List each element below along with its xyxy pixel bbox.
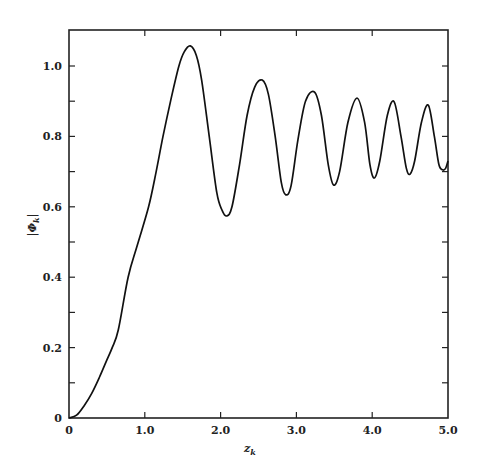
axes-box (69, 30, 448, 418)
x-tick-label: 4.0 (363, 424, 382, 437)
x-tick-label: 3.0 (287, 424, 306, 437)
axis-ticks (69, 30, 448, 418)
line-chart: 01.02.03.04.05.000.20.40.60.81.0 zk |Φk| (0, 0, 480, 472)
y-tick-label: 0.2 (43, 342, 62, 355)
y-tick-label: 0.8 (43, 130, 62, 143)
y-tick-label: 0 (54, 412, 62, 425)
tick-labels: 01.02.03.04.05.000.20.40.60.81.0 (43, 60, 458, 437)
x-tick-label: 0 (65, 424, 73, 437)
x-tick-label: 5.0 (438, 424, 457, 437)
x-tick-label: 1.0 (135, 424, 154, 437)
y-axis-label: |Φk| (26, 213, 41, 236)
y-tick-label: 0.4 (43, 271, 62, 284)
x-axis-label: zk (243, 442, 256, 457)
y-tick-label: 1.0 (43, 60, 62, 73)
data-series (69, 46, 448, 418)
y-tick-label: 0.6 (43, 201, 62, 214)
series-line (69, 46, 448, 418)
x-tick-label: 2.0 (211, 424, 230, 437)
plot-frame (69, 30, 448, 418)
